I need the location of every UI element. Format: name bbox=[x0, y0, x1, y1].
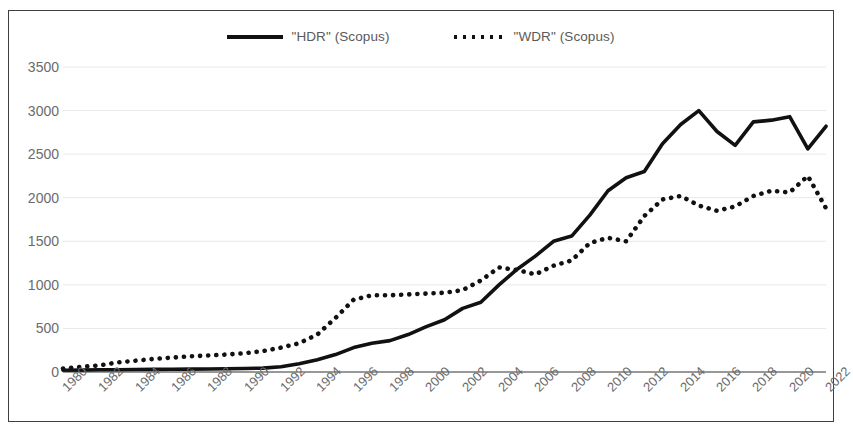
x-tick-label: 2012 bbox=[640, 364, 671, 395]
x-tick-label: 1990 bbox=[241, 364, 272, 395]
x-tick-label: 2022 bbox=[822, 364, 853, 395]
x-tick-label: 2004 bbox=[495, 364, 526, 395]
x-tick-label: 1986 bbox=[168, 364, 199, 395]
x-tick-label: 2020 bbox=[786, 364, 817, 395]
x-tick-label: 2010 bbox=[604, 364, 635, 395]
x-tick-label: 1992 bbox=[277, 364, 308, 395]
x-tick-label: 1980 bbox=[59, 364, 90, 395]
plot-area: 0500100015002000250030003500 19801982198… bbox=[9, 11, 835, 423]
x-tick-label: 1998 bbox=[386, 364, 417, 395]
x-tick-label: 1988 bbox=[204, 364, 235, 395]
x-tick-label: 1994 bbox=[313, 364, 344, 395]
x-tick-label: 2000 bbox=[422, 364, 453, 395]
chart-frame: "HDR" (Scopus) "WDR" (Scopus) 0500100015… bbox=[8, 10, 834, 422]
x-tick-label: 2008 bbox=[568, 364, 599, 395]
x-tick-label: 1982 bbox=[95, 364, 126, 395]
x-axis-tick-labels: 1980198219841986198819901992199419961998… bbox=[9, 11, 835, 423]
x-tick-label: 2016 bbox=[713, 364, 744, 395]
x-tick-label: 1996 bbox=[350, 364, 381, 395]
x-tick-label: 1984 bbox=[132, 364, 163, 395]
x-tick-label: 2006 bbox=[531, 364, 562, 395]
x-tick-label: 2018 bbox=[749, 364, 780, 395]
x-tick-label: 2014 bbox=[677, 364, 708, 395]
x-tick-label: 2002 bbox=[459, 364, 490, 395]
